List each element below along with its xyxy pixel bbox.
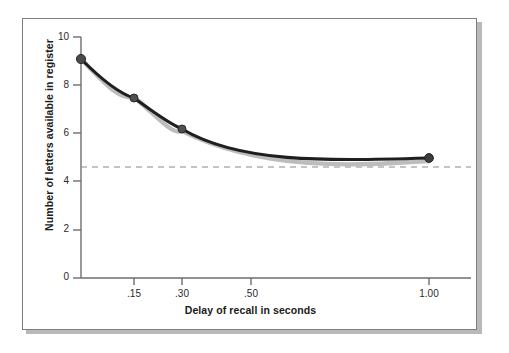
data-curve-shadow xyxy=(81,59,429,164)
plot-area: Number of letters available in register … xyxy=(23,19,478,331)
figure-frame: Number of letters available in register … xyxy=(22,18,477,330)
data-point-3 xyxy=(425,154,434,163)
figure-root: Number of letters available in register … xyxy=(0,0,509,353)
data-point-2 xyxy=(178,125,186,133)
data-point-0 xyxy=(76,54,85,63)
x-axis-title: Delay of recall in seconds xyxy=(23,304,478,316)
data-point-1 xyxy=(130,94,138,102)
data-curve xyxy=(81,59,429,160)
chart-canvas xyxy=(23,19,478,331)
